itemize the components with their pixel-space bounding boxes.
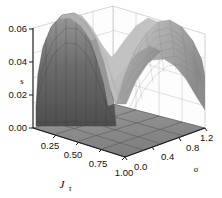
z-tick-label-3: 0.06 [9, 23, 28, 34]
y-tick-label-0: 0.0 [134, 161, 147, 172]
z-tick-label-1: 0.02 [9, 89, 28, 100]
x-tick-label-1: 0.50 [64, 149, 83, 160]
y-tick-label-2: 0.8 [186, 142, 199, 153]
z-tick-label-2: 0.04 [9, 56, 28, 67]
y-tick-label-3: 1.2 [200, 132, 213, 143]
x-tick-label-2: 0.75 [89, 158, 108, 169]
surface-plot-figure: 0.00 0.02 0.04 0.06 s 0.25 0.50 0.75 1.0… [0, 0, 222, 198]
z-tick-label-0: 0.00 [9, 122, 28, 133]
y-axis-title: σ [194, 164, 199, 174]
x-tick-label-3: 1.00 [115, 167, 134, 178]
y-tick-label-1: 0.4 [161, 151, 174, 162]
x-tick-label-0: 0.25 [41, 140, 60, 151]
z-axis-title: s [20, 76, 23, 86]
x-axis-title-subscript: τ [69, 184, 72, 193]
plot-canvas: 0.00 0.02 0.04 0.06 s 0.25 0.50 0.75 1.0… [0, 0, 222, 198]
